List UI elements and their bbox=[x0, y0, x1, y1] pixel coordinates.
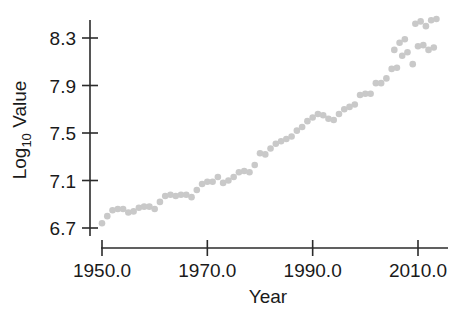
data-point bbox=[299, 124, 306, 131]
data-point bbox=[402, 36, 409, 43]
data-point bbox=[423, 23, 430, 30]
data-point bbox=[391, 47, 398, 54]
data-point bbox=[404, 49, 411, 56]
y-tick-label: 7.5 bbox=[50, 123, 76, 144]
y-tick-label: 8.3 bbox=[50, 28, 76, 49]
y-axis-title-main: Log bbox=[9, 148, 30, 180]
chart-figure: 6.77.17.57.98.3 1950.01970.01990.02010.0… bbox=[0, 0, 463, 311]
data-point bbox=[409, 61, 416, 68]
x-tick-label: 1950.0 bbox=[73, 260, 131, 281]
data-point bbox=[383, 75, 390, 82]
x-tick-label: 1990.0 bbox=[284, 260, 342, 281]
data-point bbox=[288, 133, 295, 140]
data-point bbox=[394, 64, 401, 71]
y-tick-label: 7.1 bbox=[50, 171, 76, 192]
data-point bbox=[330, 117, 337, 124]
data-point bbox=[433, 16, 440, 23]
data-point bbox=[431, 44, 438, 51]
y-tick-label: 7.9 bbox=[50, 76, 76, 97]
data-point bbox=[99, 220, 106, 227]
data-point bbox=[246, 169, 253, 176]
data-point bbox=[352, 101, 359, 108]
data-point bbox=[251, 162, 258, 169]
y-axis-title-tail: Value bbox=[9, 81, 30, 133]
data-point bbox=[104, 213, 111, 220]
data-point bbox=[194, 187, 201, 194]
y-tick-label-group: 6.77.17.57.98.3 bbox=[50, 28, 76, 239]
data-point bbox=[188, 194, 195, 201]
data-point bbox=[151, 206, 158, 213]
data-point bbox=[420, 42, 427, 49]
data-point-group bbox=[99, 16, 440, 227]
data-point bbox=[378, 80, 385, 87]
data-point bbox=[157, 199, 164, 206]
data-point bbox=[209, 178, 216, 185]
y-axis-title-subscript: 10 bbox=[19, 133, 34, 147]
scatter-plot-svg: 6.77.17.57.98.3 1950.01970.01990.02010.0… bbox=[0, 0, 463, 311]
x-tick-label: 2010.0 bbox=[389, 260, 447, 281]
data-point bbox=[267, 145, 274, 152]
y-axis-title: Log10 Value bbox=[9, 81, 34, 180]
data-point bbox=[336, 111, 343, 118]
x-tick-label: 1970.0 bbox=[178, 260, 236, 281]
data-point bbox=[215, 174, 222, 181]
svg-text:Log10 Value: Log10 Value bbox=[9, 81, 34, 180]
data-point bbox=[367, 91, 374, 98]
data-point bbox=[230, 174, 237, 181]
y-tick-label: 6.7 bbox=[50, 218, 76, 239]
data-point bbox=[262, 151, 269, 158]
data-point bbox=[417, 18, 424, 25]
x-tick-label-group: 1950.01970.01990.02010.0 bbox=[73, 260, 447, 281]
x-axis-title: Year bbox=[249, 286, 288, 307]
